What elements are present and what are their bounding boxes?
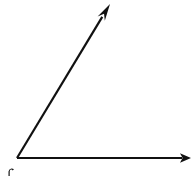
vertex-label-fragment [9, 168, 14, 176]
angle-figure [0, 0, 193, 176]
slanted-ray-line [17, 17, 102, 158]
diagram-canvas: angle-diagram Acute angle formed by two … [0, 0, 193, 176]
slanted-ray-arrowhead-icon [98, 4, 110, 21]
